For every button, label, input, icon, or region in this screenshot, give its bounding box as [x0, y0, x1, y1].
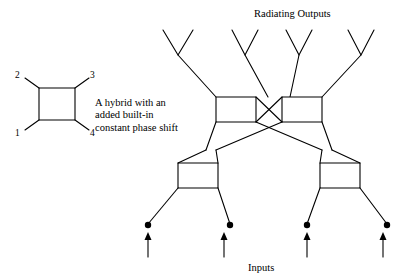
horn-feed-lines [178, 55, 361, 97]
input-arrows [145, 232, 387, 257]
hybrid-caption: A hybrid with an added built-in constant… [95, 97, 199, 134]
input-feed-lines [148, 188, 387, 224]
antenna-horn-4 [348, 30, 374, 55]
legend-hybrid-symbol [25, 78, 89, 130]
port-label-3: 3 [90, 70, 95, 81]
radiating-outputs-label: Radiating Outputs [254, 8, 331, 20]
figure-diagram: Radiating Outputs Inputs 2 3 1 4 A hybri… [0, 0, 408, 280]
inputs-label: Inputs [248, 262, 274, 274]
port-label-1: 1 [15, 128, 20, 139]
hybrid-bottom-right [320, 150, 360, 188]
diagram-canvas [0, 0, 408, 280]
hybrid-top-left [216, 97, 256, 122]
antenna-horn-2 [232, 30, 258, 55]
antenna-horn-1 [163, 30, 193, 55]
hybrid-bottom-left [178, 150, 218, 188]
antenna-horn-3 [286, 30, 312, 55]
input-port-dots [145, 222, 390, 228]
hybrid-top-right [282, 97, 322, 122]
port-label-2: 2 [15, 70, 20, 81]
